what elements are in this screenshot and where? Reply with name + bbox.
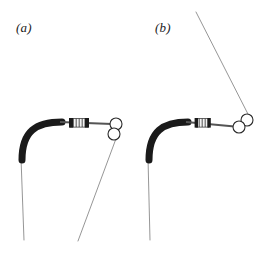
panel-b-pulley-assembly bbox=[233, 114, 253, 133]
panel-label-b: (b) bbox=[155, 20, 171, 36]
panel-b-coupling-cap-right bbox=[207, 118, 210, 128]
diagram-canvas bbox=[0, 0, 263, 259]
panel-b-diagonal-cable bbox=[196, 12, 250, 118]
panel-b-coupling-cap-left bbox=[195, 118, 198, 128]
panel-a-pulley-assembly bbox=[108, 118, 122, 140]
panel-a-coupling-connector bbox=[69, 118, 89, 128]
panel-b-coupling-connector bbox=[195, 118, 211, 128]
panel-a-curved-elbow bbox=[22, 122, 62, 160]
panel-a-vertical-cable bbox=[21, 158, 24, 240]
panel-b-horizontal-shaft bbox=[186, 122, 240, 127]
panel-a-coupling-cap-right bbox=[85, 118, 89, 128]
panel-label-a: (a) bbox=[16, 20, 32, 36]
panel-a-coupling-cap-left bbox=[69, 118, 73, 128]
panel-a-group bbox=[21, 118, 122, 241]
panel-a-pulley-wheel-lower bbox=[108, 128, 120, 140]
panel-b-vertical-cable bbox=[148, 158, 150, 240]
panel-b-pulley-wheel-lower bbox=[233, 121, 245, 133]
figure-root: (a) (b) bbox=[0, 0, 263, 259]
panel-b-group bbox=[148, 12, 253, 240]
panel-a-diagonal-cable bbox=[78, 136, 117, 241]
panel-b-curved-elbow bbox=[149, 122, 188, 160]
